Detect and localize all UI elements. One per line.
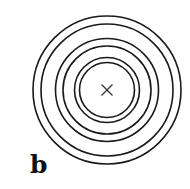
concentric-circles-diagram: [0, 0, 190, 189]
panel-label: b: [30, 152, 47, 177]
cross-icon: [102, 85, 113, 96]
